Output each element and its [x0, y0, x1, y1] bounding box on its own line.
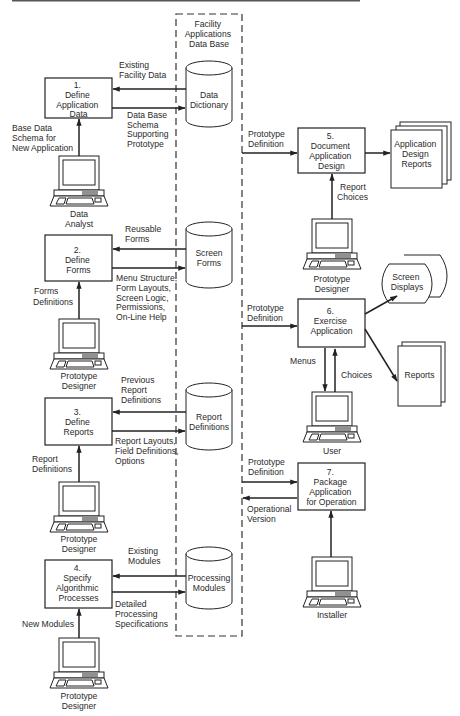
prototype-designer-2-computer-icon: PrototypeDesigner [50, 319, 108, 391]
arrow-to-screen-displays [365, 296, 397, 314]
label-prototype-definition-6: Prototype Definition [247, 303, 286, 323]
data-analyst-computer-icon: DataAnalyst [50, 156, 108, 229]
label-menu-structure: Menu Structure, Form Layouts, Screen Log… [116, 273, 180, 322]
user-computer-icon: User [303, 392, 361, 456]
label-forms-definitions: Forms Definitions [33, 286, 73, 307]
process-1-define-application-data: 1. Define Application Data [45, 78, 112, 119]
svg-text:ScreenForms: ScreenForms [195, 248, 222, 268]
process-2-define-forms: 2. Define Forms [45, 235, 112, 281]
prototype-designer-4-computer-icon: PrototypeDesigner [50, 638, 108, 711]
svg-text:Reports: Reports [404, 370, 434, 380]
processing-modules-store: ProcessingModules [186, 547, 232, 609]
label-report-definitions: Report Definitions [32, 454, 72, 474]
svg-text:Installer: Installer [317, 610, 347, 620]
reports-output: Reports [398, 342, 445, 406]
process-6-exercise-application: 6. Exercise Application [298, 299, 365, 347]
label-prototype-definition-7: Prototype Definition [248, 457, 287, 477]
label-new-modules: New Modules [22, 619, 74, 629]
label-choices: Choices [341, 370, 372, 380]
process-4-specify-algorithmic-processes: 4. Specify Algorithmic Processes [45, 560, 112, 608]
screen-displays-output: Screen Displays [382, 255, 447, 303]
data-dictionary-store: DataDictionary [186, 61, 232, 127]
svg-text:PrototypeDesigner: PrototypeDesigner [61, 691, 98, 711]
process-3-define-reports: 3. Define Reports [45, 398, 112, 445]
svg-text:PrototypeDesigner: PrototypeDesigner [61, 371, 98, 391]
label-existing-facility-data: Existing Facility Data [119, 60, 166, 80]
label-operational-version: Operational Version [247, 504, 294, 524]
svg-text:ProcessingModules: ProcessingModules [188, 573, 231, 593]
process-7-package-application: 7. Package Application for Operation [298, 463, 365, 510]
label-report-choices: Report Choices [337, 182, 368, 202]
application-design-reports-output: Application Design Reports [391, 122, 451, 188]
installer-computer-icon: Installer [303, 557, 361, 620]
label-report-layouts: Report Layouts, Field Definitions, Optio… [115, 436, 181, 466]
svg-text:Screen Displays: Screen Displays [391, 272, 423, 292]
label-db-schema-supporting: Data Base Schema Supporting Prototype [127, 110, 171, 149]
report-definitions-store: ReportDefinitions [186, 383, 232, 450]
screen-forms-store: ScreenForms [186, 222, 232, 288]
svg-text:PrototypeDesigner: PrototypeDesigner [61, 534, 98, 554]
label-detailed-processing: Detailed Processing Specifications [115, 599, 168, 629]
svg-text:PrototypeDesigner: PrototypeDesigner [314, 274, 351, 294]
label-previous-report-definitions: Previous Report Definitions [121, 375, 161, 405]
prototyping-process-diagram: Facility Applications Data Base DataDict… [0, 0, 460, 716]
label-existing-modules: Existing Modules [128, 546, 160, 566]
label-prototype-definition-5: Prototype Definition [248, 129, 287, 149]
label-menus: Menus [290, 356, 316, 366]
prototype-designer-5-computer-icon: PrototypeDesigner [303, 219, 361, 294]
database-title: Facility Applications Data Base [185, 19, 234, 49]
prototype-designer-3-computer-icon: PrototypeDesigner [50, 482, 108, 554]
label-base-data-schema: Base Data Schema for New Application [12, 123, 73, 153]
label-reusable-forms: Reusable Forms [125, 224, 164, 244]
svg-text:DataAnalyst: DataAnalyst [65, 209, 94, 229]
process-5-document-application-design: 5. Document Application Design [298, 128, 365, 173]
svg-text:User: User [323, 446, 341, 456]
